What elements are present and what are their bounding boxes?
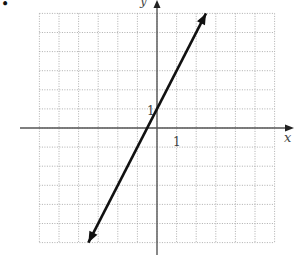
axes bbox=[20, 0, 294, 255]
y-axis-label: y bbox=[139, 0, 147, 8]
x-axis-label: x bbox=[284, 130, 292, 145]
coordinate-plane: x y 1 1 bbox=[0, 0, 298, 255]
y-axis-arrow-icon bbox=[154, 0, 161, 8]
x-tick-label: 1 bbox=[173, 135, 181, 149]
